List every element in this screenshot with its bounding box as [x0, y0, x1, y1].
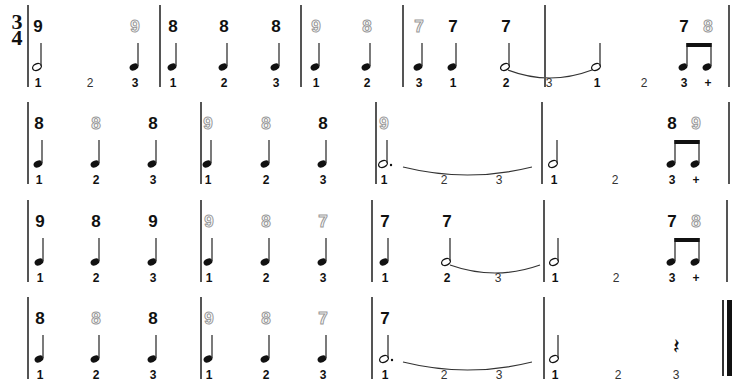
beat-count: 3 — [669, 174, 676, 186]
beat-count: 1 — [552, 272, 559, 284]
beat-count: 3 — [132, 77, 139, 89]
beat-count: 2 — [263, 174, 270, 186]
barline — [27, 102, 29, 184]
beat-count: 3 — [273, 77, 280, 89]
beat-count: 3 — [150, 369, 157, 381]
beat-count: 1 — [170, 77, 177, 89]
beat-count: 3 — [150, 272, 157, 284]
beat-count: 2 — [641, 77, 648, 89]
beat-count: 3 — [416, 77, 423, 89]
beat-count: 1 — [36, 174, 43, 186]
outlined-note-number: 7 — [414, 18, 423, 35]
beat-count: 1 — [382, 272, 389, 284]
note-number: 8 — [168, 18, 177, 35]
beat-count: 2 — [364, 77, 371, 89]
augmentation-dot-icon — [390, 164, 392, 166]
note-number: 9 — [33, 18, 42, 35]
barline — [544, 5, 546, 87]
beat-count: + — [692, 272, 699, 284]
beat-count: 2 — [221, 77, 228, 89]
note-number: 8 — [148, 115, 157, 132]
note-number: 9 — [35, 213, 44, 230]
note-number: 8 — [35, 310, 44, 327]
note-number: 7 — [448, 18, 457, 35]
beat-count: 1 — [35, 77, 42, 89]
note-number: 7 — [380, 213, 389, 230]
beat-count: 1 — [382, 369, 389, 381]
note-number: 8 — [91, 213, 100, 230]
note-number: 7 — [380, 310, 389, 327]
beat-count: 3 — [496, 174, 503, 186]
outlined-note-number: 9 — [379, 115, 388, 132]
outlined-note-number: 8 — [362, 18, 371, 35]
barline — [27, 200, 29, 282]
beat-count: + — [704, 77, 711, 89]
beat-count: 1 — [205, 174, 212, 186]
outlined-note-number: 9 — [203, 115, 212, 132]
beat-count: 3 — [496, 369, 503, 381]
beat-count: 3 — [495, 272, 502, 284]
tie-curve — [403, 167, 532, 175]
beat-count: 3 — [669, 272, 676, 284]
barline — [371, 297, 373, 379]
barline — [27, 5, 29, 87]
barline — [200, 102, 202, 184]
note-number: 7 — [442, 213, 451, 230]
beat-count: 1 — [37, 272, 44, 284]
note-number: 8 — [148, 310, 157, 327]
beat-count: 1 — [381, 174, 388, 186]
beat-count: 2 — [612, 174, 619, 186]
barline — [541, 102, 543, 184]
tie-curve — [403, 362, 532, 370]
note-number: 7 — [679, 18, 688, 35]
augmentation-dot-icon — [391, 359, 393, 361]
beat-count: 3 — [320, 272, 327, 284]
barline — [726, 200, 728, 282]
beat-count: 3 — [546, 77, 553, 89]
outlined-note-number: 9 — [130, 18, 139, 35]
barline — [402, 5, 404, 87]
final-barline-thin — [722, 300, 724, 376]
outlined-note-number: 8 — [703, 18, 712, 35]
beat-count: 2 — [441, 174, 448, 186]
beat-count: 1 — [313, 77, 320, 89]
outlined-note-number: 9 — [204, 310, 213, 327]
beat-count: 1 — [450, 77, 457, 89]
barline — [300, 5, 302, 87]
beat-count: 2 — [613, 272, 620, 284]
outlined-note-number: 7 — [318, 310, 327, 327]
barline — [728, 102, 730, 184]
outlined-note-number: 9 — [311, 18, 320, 35]
beat-count: 2 — [93, 369, 100, 381]
outlined-note-number: 8 — [261, 310, 270, 327]
barline — [27, 297, 29, 379]
beat-count: 2 — [444, 272, 451, 284]
beat-count: 1 — [37, 369, 44, 381]
barline — [159, 5, 161, 87]
beat-count: 3 — [150, 174, 157, 186]
beat-count: 1 — [551, 174, 558, 186]
beat-count: + — [692, 174, 699, 186]
barline — [543, 297, 545, 379]
outlined-note-number: 7 — [318, 213, 327, 230]
note-number: 8 — [34, 115, 43, 132]
beat-count: 1 — [206, 369, 213, 381]
beat-count: 3 — [673, 369, 680, 381]
outlined-note-number: 8 — [691, 213, 700, 230]
note-number: 8 — [219, 18, 228, 35]
beat-count: 2 — [93, 174, 100, 186]
barline — [371, 200, 373, 282]
beat-count: 1 — [552, 369, 559, 381]
beat-count: 2 — [93, 272, 100, 284]
beat-count: 2 — [503, 77, 510, 89]
beat-count: 3 — [320, 369, 327, 381]
eighth-beam — [674, 238, 699, 242]
outlined-note-number: 9 — [691, 115, 700, 132]
barline — [375, 102, 377, 184]
beat-count: 2 — [263, 272, 270, 284]
note-number: 8 — [318, 115, 327, 132]
barline — [200, 200, 202, 282]
beat-count: 1 — [594, 77, 601, 89]
note-number: 7 — [501, 18, 510, 35]
note-number: 8 — [271, 18, 280, 35]
